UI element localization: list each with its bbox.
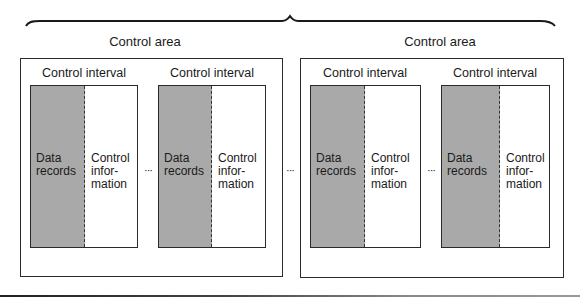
data-records-section: Data records: [311, 86, 365, 247]
control-information-section: Control infor- mation: [500, 86, 549, 247]
control-information-label: mation: [506, 178, 545, 191]
ellipsis: ···: [282, 164, 298, 176]
data-records-section: Data records: [442, 86, 500, 247]
control-interval-label: Control interval: [147, 66, 277, 80]
control-information-label: mation: [371, 178, 410, 191]
data-records-section: Data records: [31, 86, 85, 247]
control-interval: Data records Control infor- mation: [158, 85, 266, 248]
control-interval-label: Control interval: [300, 66, 430, 80]
data-records-label: records: [164, 165, 204, 178]
control-information-section: Control infor- mation: [85, 86, 137, 247]
data-records-label: records: [36, 165, 76, 178]
ellipsis: ···: [423, 164, 439, 176]
control-interval: Data records Control infor- mation: [310, 85, 421, 248]
bottom-divider: [0, 295, 580, 297]
ellipsis: ···: [140, 164, 156, 176]
control-information-label: mation: [218, 178, 257, 191]
control-information-section: Control infor- mation: [365, 86, 420, 247]
curly-brace-icon: [0, 0, 580, 32]
control-area-label: Control area: [340, 34, 540, 49]
control-information-label: mation: [91, 178, 130, 191]
control-interval-label: Control interval: [430, 66, 560, 80]
control-interval: Data records Control infor- mation: [441, 85, 550, 248]
data-records-label: records: [316, 165, 356, 178]
control-interval-label: Control interval: [19, 66, 149, 80]
control-information-section: Control infor- mation: [212, 86, 265, 247]
data-records-label: records: [447, 165, 487, 178]
control-interval: Data records Control infor- mation: [30, 85, 138, 248]
data-records-section: Data records: [159, 86, 212, 247]
control-area-label: Control area: [45, 34, 245, 49]
